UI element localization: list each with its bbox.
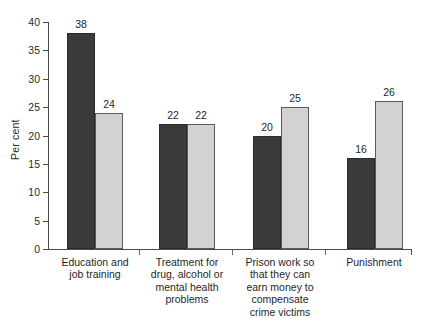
category-label: Punishment <box>330 256 418 268</box>
category-label-line: Prison work so <box>236 256 324 268</box>
y-axis-tick-label-wrap: 10 <box>0 192 40 193</box>
category-label-line: crime victims <box>236 306 324 318</box>
bar-value-label: 22 <box>181 109 221 121</box>
bar-value-label: 25 <box>275 92 315 104</box>
y-axis-tick-label: 40 <box>0 16 40 28</box>
y-axis-tick-label: 15 <box>0 158 40 170</box>
bar <box>375 101 403 249</box>
y-axis-tick-mark <box>43 50 49 51</box>
y-axis-tick-mark <box>43 221 49 222</box>
y-axis-tick-label-wrap: 30 <box>0 79 40 80</box>
y-axis-tick-label: 30 <box>0 73 40 85</box>
category-label-line: drug, alcohol or <box>143 268 231 280</box>
bar-chart: Per cent 0510152025303540 38242222202516… <box>0 0 437 333</box>
bar-value-label: 24 <box>89 98 129 110</box>
y-axis-tick-mark <box>43 164 49 165</box>
y-axis-tick-mark <box>43 136 49 137</box>
y-axis-tick-label-wrap: 5 <box>0 221 40 222</box>
x-axis-group-tick <box>232 250 233 255</box>
y-axis-tick-label: 20 <box>0 130 40 142</box>
category-label-line: Treatment for <box>143 256 231 268</box>
y-axis-tick-label-wrap: 35 <box>0 50 40 51</box>
category-label-line: Education and <box>52 256 138 268</box>
category-label-line: problems <box>143 293 231 305</box>
category-label-line: that they can <box>236 268 324 280</box>
x-axis-line <box>48 249 412 250</box>
x-axis-group-tick <box>325 250 326 255</box>
y-axis-tick-label-wrap: 0 <box>0 249 40 250</box>
bar <box>281 107 309 249</box>
bar <box>347 158 375 249</box>
bar <box>67 33 95 249</box>
y-axis-tick-label: 35 <box>0 44 40 56</box>
y-axis-tick-mark <box>43 107 49 108</box>
category-label-line: Punishment <box>330 256 418 268</box>
y-axis-tick-mark <box>43 22 49 23</box>
bar <box>159 124 187 249</box>
y-axis-tick-label-wrap: 20 <box>0 136 40 137</box>
category-label: Education andjob training <box>52 256 138 281</box>
x-axis-end-tick <box>411 249 412 255</box>
category-label: Prison work sothat they canearn money to… <box>236 256 324 318</box>
category-label-line: mental health <box>143 281 231 293</box>
bar-value-label: 38 <box>61 18 101 30</box>
x-axis-group-tick <box>139 250 140 255</box>
bar-value-label: 26 <box>369 86 409 98</box>
category-label-line: earn money to <box>236 281 324 293</box>
y-axis-tick-label-wrap: 15 <box>0 164 40 165</box>
y-axis-tick-label: 5 <box>0 215 40 227</box>
y-axis-tick-label-wrap: 25 <box>0 107 40 108</box>
y-axis-tick-label-wrap: 40 <box>0 22 40 23</box>
bar <box>253 136 281 250</box>
y-axis-tick-label: 25 <box>0 101 40 113</box>
category-label-line: compensate <box>236 293 324 305</box>
bar <box>187 124 215 249</box>
bar <box>95 113 123 249</box>
category-label-line: job training <box>52 268 138 280</box>
category-label: Treatment fordrug, alcohol ormental heal… <box>143 256 231 306</box>
y-axis-tick-mark <box>43 192 49 193</box>
y-axis-tick-mark <box>43 79 49 80</box>
y-axis-tick-label: 0 <box>0 243 40 255</box>
y-axis-tick-label: 10 <box>0 186 40 198</box>
